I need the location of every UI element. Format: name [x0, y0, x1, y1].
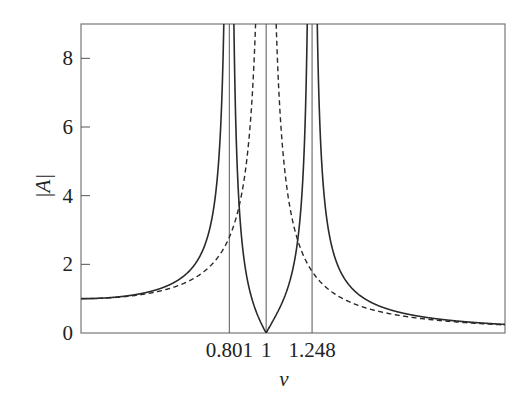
series-layer — [81, 0, 505, 333]
x-tick-label: 0.801 — [206, 338, 253, 362]
reference-lines — [229, 24, 312, 333]
y-axis-ticks: 02468 — [63, 46, 91, 345]
y-axis-label: |A| — [31, 174, 55, 198]
x-axis-ticks: 0.80111.248 — [206, 338, 336, 362]
y-tick-label: 0 — [63, 321, 74, 345]
plot-frame — [81, 24, 505, 333]
x-tick-label: 1 — [261, 338, 272, 362]
y-tick-label: 8 — [63, 46, 74, 70]
x-axis-label: ν — [279, 367, 289, 391]
y-tick-label: 2 — [63, 252, 74, 276]
x-tick-label: 1.248 — [288, 338, 335, 362]
dashed-response-curve — [81, 0, 505, 325]
y-tick-label: 4 — [63, 184, 74, 208]
y-tick-label: 6 — [63, 115, 74, 139]
frequency-response-chart: 02468 0.80111.248 ν |A| — [0, 0, 532, 405]
solid-response-curve — [81, 0, 505, 333]
